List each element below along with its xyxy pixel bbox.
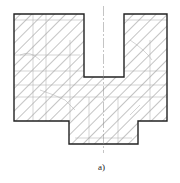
figure-caption: a) — [98, 162, 105, 172]
hatched-section — [14, 14, 167, 144]
section-drawing — [0, 0, 180, 183]
